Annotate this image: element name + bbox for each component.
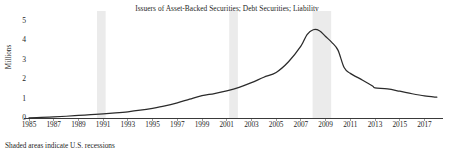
recession-band xyxy=(313,11,332,118)
recession-band xyxy=(229,11,238,118)
recession-band xyxy=(97,11,106,118)
chart-footnote: Shaded areas indicate U.S. recessions xyxy=(5,141,115,150)
recession-bands xyxy=(97,11,331,118)
plot-area xyxy=(0,0,454,157)
chart-container: Issuers of Asset-Backed Securities; Debt… xyxy=(0,0,454,157)
